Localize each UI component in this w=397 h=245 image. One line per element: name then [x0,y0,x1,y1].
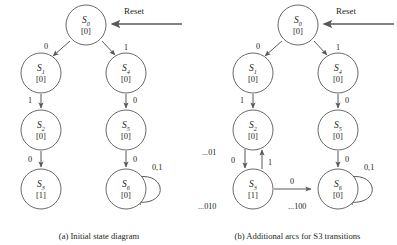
arc-label-s4-s5: 0 [345,96,349,105]
node-s2-output: [0] [248,131,258,141]
node-s1[interactable]: S1 [0] [233,53,273,93]
node-s0-output: [0] [293,26,303,36]
node-s0[interactable]: S0 [0] [66,5,106,45]
sequence-label-s6: ...100 [288,202,306,211]
arc-label-s5-s6: 0 [133,155,137,164]
node-s4-output: [0] [121,74,131,84]
state-diagram-a-svg: Reset 0 1 1 0 0 0 0,1 [0,0,198,245]
arc-label-s2-s3: 0 [231,156,235,165]
arc-s0-s1 [265,41,282,56]
state-diagram-additional-arcs: Reset 0 1 1 0 0 1 0 0 [198,0,397,245]
arc-s0-s4 [102,41,115,55]
node-s4-output: [0] [333,74,343,84]
arc-label-s2-s3: 0 [28,155,32,164]
arc-label-s4-s5: 0 [133,96,137,105]
node-s6-output: [0] [333,190,343,200]
node-s4[interactable]: S4 [0] [106,53,146,93]
arc-label-s3-s2: 1 [268,158,272,167]
node-s1-output: [0] [248,74,258,84]
state-diagram-b-svg: Reset 0 1 1 0 0 1 0 0 [198,0,397,245]
arc-label-s0-s1: 0 [44,42,48,51]
node-s5[interactable]: S5 [0] [318,110,358,150]
node-s4[interactable]: S4 [0] [318,53,358,93]
arc-label-s0-s4: 1 [124,43,128,52]
arc-s0-s1 [53,41,70,56]
node-s6[interactable]: S6 [0] [318,169,358,209]
node-s2[interactable]: S2 [0] [233,110,273,150]
arc-label-s6-self: 0,1 [364,163,374,172]
reset-label: Reset [124,6,144,16]
arc-label-s0-s1: 0 [256,42,260,51]
node-s3[interactable]: S3 [1] [21,169,61,209]
figure-container: Reset 0 1 1 0 0 0 0,1 [0,0,397,245]
arc-s0-s4 [314,41,327,55]
node-s5[interactable]: S5 [0] [106,110,146,150]
node-s6-output: [0] [121,190,131,200]
arc-label-s5-s6: 0 [345,155,349,164]
sequence-label-s3: ...010 [198,202,216,211]
node-s1[interactable]: S1 [0] [21,53,61,93]
node-s1-output: [0] [36,74,46,84]
node-s2[interactable]: S2 [0] [21,110,61,150]
arc-label-s1-s2: 1 [240,96,244,105]
node-s3-output: [1] [36,190,46,200]
arc-label-s0-s4: 1 [336,43,340,52]
node-s3[interactable]: S3 [1] [233,169,273,209]
reset-label: Reset [336,6,356,16]
state-diagram-initial: Reset 0 1 1 0 0 0 0,1 [0,0,198,245]
caption-panel-b: (b) Additional arcs for S3 transitions [200,231,395,241]
node-s6[interactable]: S6 [0] [106,169,146,209]
node-s0-output: [0] [81,26,91,36]
arc-label-s1-s2: 1 [28,96,32,105]
node-s0[interactable]: S0 [0] [278,5,318,45]
caption-panel-a: (a) Initial state diagram [6,231,192,241]
sequence-label-s2: ...01 [202,148,216,157]
arc-label-s6-self: 0,1 [152,163,162,172]
node-s3-output: [1] [248,190,258,200]
node-s5-output: [0] [333,131,343,141]
node-s2-output: [0] [36,131,46,141]
arc-label-s3-s6: 0 [290,177,294,186]
node-s5-output: [0] [121,131,131,141]
